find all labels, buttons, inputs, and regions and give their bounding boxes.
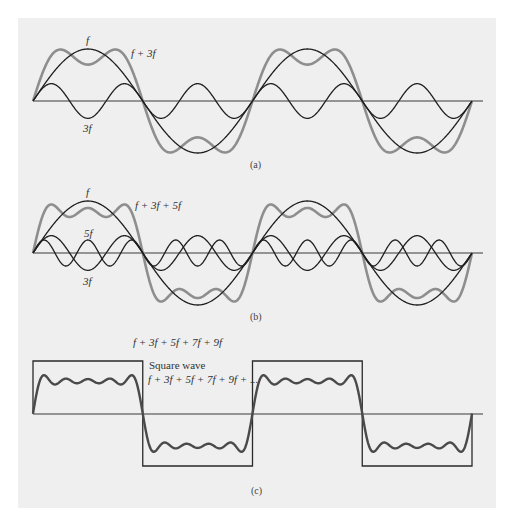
- panel-a-label-sum: f + 3f: [131, 48, 156, 59]
- panel-c-caption: (c): [251, 486, 262, 496]
- panel-c-label-square-series: f + 3f + 5f + 7f + 9f + ...: [148, 374, 258, 385]
- panel-c-label-square-title: Square wave: [149, 360, 206, 371]
- panel-c-label-sum: f + 3f + 5f + 7f + 9f: [133, 337, 222, 348]
- panel-a-label-fundamental: f: [86, 35, 89, 46]
- panel-a-caption: (a): [250, 160, 261, 170]
- panel-b-fifth-harmonic-wave: [33, 240, 472, 266]
- panel-a: [33, 49, 483, 153]
- panel-a-label-third: 3f: [83, 123, 92, 134]
- panel-b-label-fifth: 5f: [84, 228, 93, 239]
- fourier-synthesis-figure: [0, 0, 513, 521]
- panel-b: [33, 201, 483, 305]
- panel-b-label-sum: f + 3f + 5f: [135, 200, 181, 211]
- panel-b-caption: (b): [250, 312, 262, 322]
- panel-b-label-third: 3f: [83, 276, 92, 287]
- panel-b-label-fundamental: f: [86, 187, 89, 198]
